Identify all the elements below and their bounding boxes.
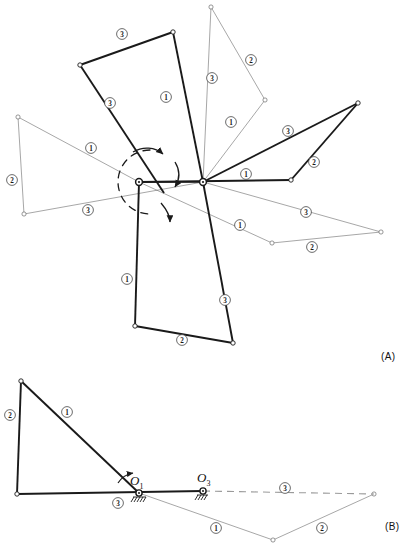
joint-node: [289, 178, 293, 182]
link-number-badge: 3: [83, 205, 94, 216]
joint-node: [171, 30, 175, 34]
badge-number: 3: [86, 207, 90, 215]
badge-number: 2: [180, 337, 184, 345]
link-number-badge: 2: [309, 157, 320, 168]
badge-number: 3: [108, 100, 112, 108]
badge-number: 3: [210, 75, 214, 83]
pivot-label-o3-letter: O: [197, 470, 206, 485]
badge-number: 3: [120, 31, 124, 39]
link-number-badge: 1: [86, 143, 97, 154]
link-number-badge: 1: [226, 117, 237, 128]
badge-number: 2: [8, 412, 12, 420]
badge-number: 1: [65, 409, 69, 417]
link-number-badge: 3: [105, 98, 116, 109]
link-number-badge: 2: [317, 523, 328, 534]
link-number-badge: 3: [280, 483, 291, 494]
panel-tag-a: (A): [381, 351, 396, 362]
joint-node: [379, 230, 383, 234]
pivot-label-o3-sub: 3: [206, 479, 210, 488]
linkage-b-bold: [17, 381, 203, 494]
link-number-badge: 3: [220, 295, 231, 306]
joint-node: [271, 538, 275, 542]
badge-number: 2: [249, 57, 253, 65]
badge-number: 2: [310, 244, 314, 252]
badge-number: 2: [10, 177, 14, 185]
linkage-position-lower-right: [139, 182, 381, 243]
joint-node: [231, 341, 235, 345]
fixed-pivot-left-a: [136, 179, 143, 186]
badge-number: 2: [312, 159, 316, 167]
joint-node: [133, 324, 137, 328]
link-number-badge: 3: [301, 207, 312, 218]
badge-number: 1: [214, 525, 218, 533]
joint-node: [356, 101, 360, 105]
joint-node: [270, 241, 274, 245]
badge-number: 3: [283, 485, 287, 493]
joint-node: [15, 492, 19, 496]
panel-tag-b: (B): [385, 521, 400, 532]
link-number-badge: 1: [62, 407, 73, 418]
badge-number: 1: [164, 94, 168, 102]
linkage-position-left: [18, 117, 203, 214]
link-number-badge: 3: [207, 73, 218, 84]
joint-node: [22, 212, 26, 216]
pivot-label-o1-letter: O: [130, 473, 139, 488]
link-number-badge: 2: [307, 242, 318, 253]
badge-number: 2: [320, 525, 324, 533]
linkage-diagram-svg: 313321123321321132213312: [0, 0, 410, 545]
link-number-badge: 2: [246, 55, 257, 66]
link-number-badge: 1: [122, 274, 133, 285]
badge-number: 1: [125, 276, 129, 284]
linkage-bold-upper-left: [80, 32, 203, 193]
badge-number: 3: [304, 209, 308, 217]
link-number-badge: 2: [7, 175, 18, 186]
badge-number: 1: [89, 145, 93, 153]
linkage-bold-bottom: [135, 182, 233, 343]
link-number-label-layer: 313321123321321132213312: [5, 29, 328, 534]
badge-number: 1: [229, 119, 233, 127]
link-number-badge: 3: [283, 126, 294, 137]
figure-canvas: 313321123321321132213312 (A) (B) O1 O3: [0, 0, 410, 545]
panel-b-group: [15, 379, 376, 542]
link-number-badge: 1: [241, 169, 252, 180]
pivot-label-o1-sub: 1: [139, 482, 143, 491]
badge-number: 1: [238, 222, 242, 230]
joint-node: [16, 115, 20, 119]
joint-node: [19, 379, 23, 383]
link-number-badge: 3: [113, 498, 124, 509]
panel-a-group: [16, 5, 383, 345]
link-number-badge: 1: [161, 92, 172, 103]
fixed-pivot-right-a: [200, 179, 207, 186]
badge-number: 3: [286, 128, 290, 136]
pivot-label-o3: O3: [197, 470, 210, 488]
joint-node: [263, 98, 267, 102]
badge-number: 1: [244, 171, 248, 179]
link-number-badge: 2: [5, 410, 16, 421]
link-number-badge: 1: [235, 220, 246, 231]
joint-node: [209, 5, 213, 9]
badge-number: 3: [223, 297, 227, 305]
link-number-badge: 2: [177, 335, 188, 346]
link-number-badge: 1: [211, 523, 222, 534]
link-number-badge: 3: [117, 29, 128, 40]
fixed-pivot-o3: [195, 488, 208, 500]
joint-node: [78, 63, 82, 67]
linkage-b-thin: [139, 493, 374, 540]
pivot-label-o1: O1: [130, 473, 143, 491]
badge-number: 3: [116, 500, 120, 508]
